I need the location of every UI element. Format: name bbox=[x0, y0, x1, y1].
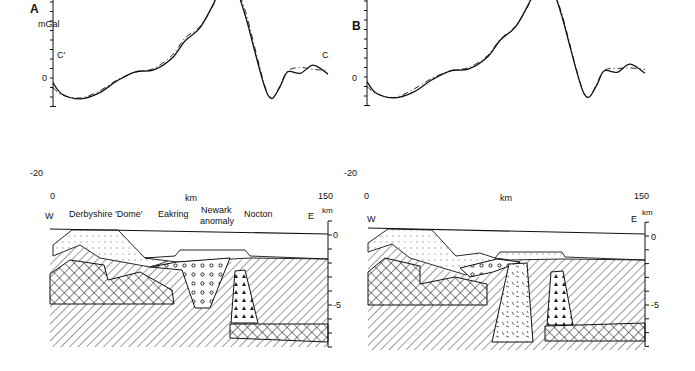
x-tick-0: 0 bbox=[50, 191, 55, 201]
place-newark: Newark bbox=[201, 205, 232, 215]
depth-axis bbox=[645, 222, 649, 346]
east-label: E bbox=[631, 214, 637, 224]
x-axis-label: km bbox=[185, 193, 197, 203]
thin-layer-unit bbox=[495, 252, 645, 260]
x-tick-150: 150 bbox=[634, 191, 649, 201]
panel-b-cross-section: W E km 0 -5 bbox=[367, 208, 659, 350]
y-tick-0: 0 bbox=[352, 73, 357, 83]
panel-a-label: A bbox=[30, 2, 39, 16]
panel-b-label: B bbox=[352, 19, 361, 33]
panel-a-axes bbox=[50, 0, 328, 107]
east-label: E bbox=[308, 211, 314, 221]
depth-tick-minus5: -5 bbox=[651, 300, 659, 310]
figure-canvas: A mGal C' C 0 -20 0 150 km B 0 -20 0 150… bbox=[0, 0, 695, 371]
panel-a-gravity-plot: A mGal C' C 0 -20 0 150 km bbox=[30, 0, 333, 203]
y-tick-minus20: -20 bbox=[30, 168, 43, 178]
profile-start-label: C' bbox=[57, 50, 65, 60]
panel-b-axes bbox=[364, 0, 645, 106]
calculated-gravity-curve bbox=[53, 0, 328, 99]
west-label: W bbox=[45, 211, 54, 221]
depth-tick-0: 0 bbox=[333, 230, 338, 240]
place-anomaly: anomaly bbox=[200, 216, 235, 226]
profile-end-label: C bbox=[322, 50, 329, 60]
crosshatched-body-right bbox=[545, 323, 645, 341]
y-tick-0: 0 bbox=[42, 73, 47, 83]
depth-tick-0: 0 bbox=[651, 232, 656, 242]
panel-a-cross-section: W E km Derbyshire 'Dome' Eakring Newark … bbox=[45, 205, 341, 347]
place-nocton: Nocton bbox=[244, 209, 273, 219]
observed-gravity-curve bbox=[367, 0, 645, 98]
y-tick-minus20: -20 bbox=[344, 168, 357, 178]
depth-unit-label: km bbox=[642, 208, 653, 217]
place-derbyshire-dome: Derbyshire 'Dome' bbox=[69, 209, 143, 219]
place-eakring: Eakring bbox=[158, 209, 189, 219]
calculated-gravity-curve bbox=[367, 0, 645, 98]
depth-axis bbox=[328, 221, 332, 347]
x-tick-0: 0 bbox=[364, 191, 369, 201]
west-label: W bbox=[367, 214, 376, 224]
panel-b-gravity-plot: B 0 -20 0 150 km bbox=[344, 0, 649, 203]
y-unit-label: mGal bbox=[38, 19, 60, 29]
depth-unit-label: km bbox=[322, 206, 333, 215]
x-tick-150: 150 bbox=[318, 191, 333, 201]
x-axis-label: km bbox=[500, 193, 512, 203]
observed-gravity-curve bbox=[53, 0, 328, 99]
depth-tick-minus5: -5 bbox=[333, 300, 341, 310]
